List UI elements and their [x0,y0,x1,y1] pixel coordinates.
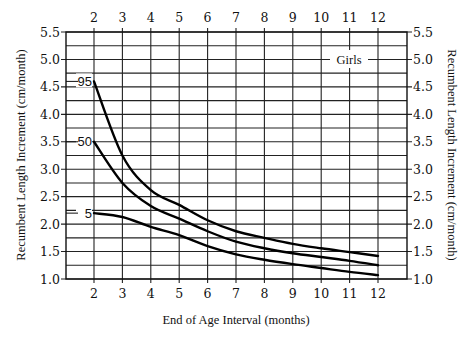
curve-label-percentile-5: 5 [85,206,92,221]
y-tick-label-right: 2.5 [413,189,433,204]
curve-label-percentile-95: 95 [78,74,92,89]
y-tick-label-left: 2.5 [40,189,60,204]
y-axis-label-right: Recumbent Length Increment (cm/month) [445,49,459,260]
x-tick-label-bottom: 2 [90,286,98,301]
y-tick-label-right: 1.5 [413,244,433,259]
y-tick-label-right: 5.0 [413,52,433,67]
x-tick-label-bottom: 4 [147,286,155,301]
x-tick-label-bottom: 10 [313,286,329,301]
x-tick-label-top: 12 [370,10,386,25]
y-tick-label-left: 1.0 [40,272,60,287]
x-axis-label: End of Age Interval (months) [162,313,309,327]
y-tick-label-right: 1.0 [413,272,433,287]
y-tick-label-left: 3.0 [40,162,60,177]
y-tick-label-left: 4.5 [40,79,60,94]
x-tick-label-bottom: 8 [260,286,268,301]
y-tick-label-left: 3.5 [40,134,60,149]
y-tick-label-right: 3.5 [413,134,433,149]
x-tick-label-top: 10 [313,10,329,25]
x-tick-label-bottom: 3 [118,286,126,301]
x-tick-label-top: 3 [118,10,126,25]
y-tick-label-right: 5.5 [413,25,433,40]
x-tick-label-bottom: 7 [232,286,240,301]
y-tick-label-left: 5.0 [40,52,60,67]
legend-label: Girls [337,53,362,67]
y-tick-label-left: 4.0 [40,107,60,122]
x-tick-label-top: 7 [232,10,240,25]
x-tick-label-top: 9 [289,10,297,25]
y-tick-label-right: 2.0 [413,217,433,232]
x-tick-label-bottom: 6 [204,286,212,301]
x-tick-label-top: 4 [147,10,155,25]
x-tick-label-top: 6 [204,10,212,25]
y-axis-label-left: Recumbent Length Increment (cm/month) [14,49,28,260]
curve-label-percentile-50: 50 [78,134,92,149]
x-tick-label-bottom: 11 [342,286,358,301]
x-tick-label-bottom: 12 [370,286,386,301]
y-tick-label-right: 4.0 [413,107,433,122]
y-tick-label-right: 4.5 [413,79,433,94]
x-tick-label-bottom: 9 [289,286,297,301]
growth-chart: 22334455667788991010111112121.01.01.51.5… [0,0,466,339]
x-tick-label-top: 5 [175,10,183,25]
y-tick-label-left: 5.5 [40,25,60,40]
y-tick-label-left: 2.0 [40,217,60,232]
y-tick-label-left: 1.5 [40,244,60,259]
legend-girls: Girls [330,50,368,68]
x-tick-label-bottom: 5 [175,286,183,301]
x-tick-label-top: 11 [342,10,358,25]
x-tick-label-top: 8 [260,10,268,25]
y-tick-label-right: 3.0 [413,162,433,177]
x-tick-label-top: 2 [90,10,98,25]
